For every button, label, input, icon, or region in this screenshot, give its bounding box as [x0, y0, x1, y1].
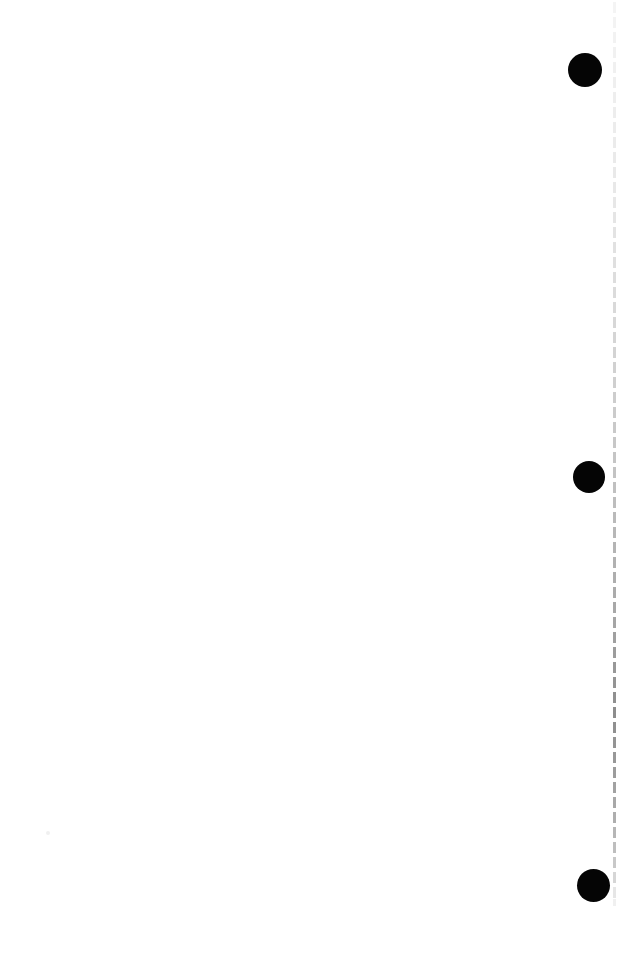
margin-rule-dash: [613, 137, 616, 148]
margin-rule-dash: [613, 152, 616, 163]
margin-rule-dash: [613, 77, 616, 88]
margin-rule-dash: [613, 17, 616, 28]
circular-mark: [573, 461, 605, 493]
margin-rule-dash: [613, 272, 616, 283]
margin-rule-dash: [613, 257, 616, 268]
margin-rule-dash: [613, 467, 616, 478]
margin-rule-dash: [613, 242, 616, 253]
margin-rule-dash: [613, 827, 616, 838]
margin-rule-dash: [613, 32, 616, 43]
margin-rule-dash: [613, 557, 616, 568]
margin-rule-dash: [613, 437, 616, 448]
margin-rule-dash: [613, 797, 616, 808]
margin-rule-dash: [613, 482, 616, 493]
margin-rule-dash: [613, 617, 616, 628]
margin-rule-dash: [613, 872, 616, 883]
margin-rule-dash: [613, 302, 616, 313]
margin-rule-dash: [613, 602, 616, 613]
margin-rule-dash: [613, 782, 616, 793]
margin-rule-dash: [613, 392, 616, 403]
margin-rule-dash: [613, 842, 616, 853]
margin-rule-dash: [613, 197, 616, 208]
margin-rule-dash: [613, 542, 616, 553]
scan-speck: [46, 831, 50, 835]
margin-rule-dash: [613, 647, 616, 658]
margin-rule-dash: [613, 707, 616, 718]
margin-rule-dash: [613, 512, 616, 523]
dashed-margin-rule: [613, 2, 616, 906]
margin-rule-dash: [613, 347, 616, 358]
margin-rule-dash: [613, 527, 616, 538]
margin-rule-dash: [613, 767, 616, 778]
margin-rule-dash: [613, 407, 616, 418]
page-body-blank-area: [0, 0, 621, 959]
margin-rule-dash: [613, 752, 616, 763]
margin-rule-dash: [613, 167, 616, 178]
margin-rule-dash: [613, 317, 616, 328]
margin-rule-dash: [613, 377, 616, 388]
margin-rule-dash: [613, 887, 616, 898]
margin-rule-dash: [613, 497, 616, 508]
margin-rule-dash: [613, 362, 616, 373]
margin-rule-dash: [613, 452, 616, 463]
margin-rule-dash: [613, 332, 616, 343]
margin-rule-dash: [613, 572, 616, 583]
margin-rule-dash: [613, 122, 616, 133]
margin-rule-dash: [613, 107, 616, 118]
margin-rule-dash: [613, 899, 616, 906]
margin-rule-dash: [613, 722, 616, 733]
margin-rule-dash: [613, 587, 616, 598]
margin-rule-dash: [613, 47, 616, 58]
margin-rule-dash: [613, 287, 616, 298]
margin-rule-dash: [613, 677, 616, 688]
margin-rule-dash: [613, 692, 616, 703]
margin-rule-dash: [613, 857, 616, 868]
circular-mark: [568, 53, 602, 87]
margin-rule-dash: [613, 2, 616, 13]
margin-rule-dash: [613, 632, 616, 643]
margin-rule-dash: [613, 422, 616, 433]
margin-rule-dash: [613, 92, 616, 103]
margin-rule-dash: [613, 737, 616, 748]
margin-rule-dash: [613, 212, 616, 223]
circular-mark: [577, 869, 610, 902]
margin-rule-dash: [613, 62, 616, 73]
margin-rule-dash: [613, 812, 616, 823]
margin-rule-dash: [613, 182, 616, 193]
scanned-page: [0, 0, 621, 959]
margin-rule-dash: [613, 227, 616, 238]
margin-rule-dash: [613, 662, 616, 673]
